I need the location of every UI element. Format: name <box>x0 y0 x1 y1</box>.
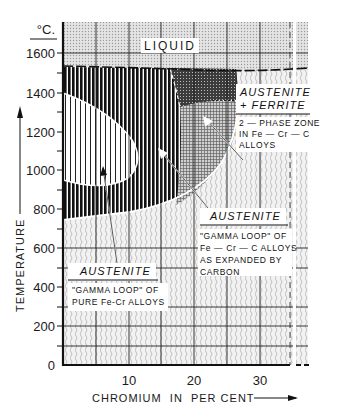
y-tick-1400: 1400 <box>26 86 55 101</box>
plot-area <box>63 22 308 365</box>
expanded-note-1: "GAMMA LOOP" OF <box>200 231 287 241</box>
liquid-label: LIQUID <box>144 39 196 53</box>
unit-label: °C. <box>37 22 55 37</box>
y-tick-1000: 1000 <box>26 163 55 178</box>
expanded-note-3: AS EXPANDED BY <box>200 255 282 265</box>
pure-note-2: PURE Fe-Cr ALLOYS <box>72 297 165 307</box>
x-tick-20: 20 <box>187 373 201 388</box>
austenite-ferrite-label-2: + FERRITE <box>240 99 306 111</box>
two-phase-note-3: ALLOYS <box>239 140 276 150</box>
y-tick-600: 600 <box>33 241 55 256</box>
austenite-ferrite-label-1: AUSTENITE <box>239 86 311 98</box>
x-axis-title: CHROMIUM IN PER CENT <box>92 392 255 404</box>
two-phase-note-2: IN Fe — Cr — C <box>239 129 310 139</box>
y-tick-200: 200 <box>33 319 55 334</box>
y-tick-1200: 1200 <box>26 125 55 140</box>
y-tick-800: 800 <box>33 202 55 217</box>
expanded-note-2: Fe — Cr — C ALLOYS <box>200 243 297 253</box>
arrow-up-icon <box>17 106 23 118</box>
x-tick-30: 30 <box>253 373 267 388</box>
arrow-right-icon <box>288 395 298 401</box>
y-tick-0: 0 <box>48 358 55 373</box>
austenite-pure-label: AUSTENITE <box>79 265 151 277</box>
two-phase-note-1: 2 — PHASE ZONE <box>239 118 320 128</box>
x-tick-10: 10 <box>122 373 136 388</box>
austenite-expanded-label: AUSTENITE <box>209 210 281 222</box>
pure-note-1: "GAMMA LOOP" OF <box>72 285 159 295</box>
y-axis-title: TEMPERATURE <box>14 219 26 312</box>
y-tick-400: 400 <box>33 280 55 295</box>
y-tick-1600: 1600 <box>26 46 55 61</box>
phase-diagram: 1600 1400 1200 1000 800 600 400 200 0 °C… <box>0 0 338 420</box>
expanded-note-4: CARBON <box>200 267 240 277</box>
